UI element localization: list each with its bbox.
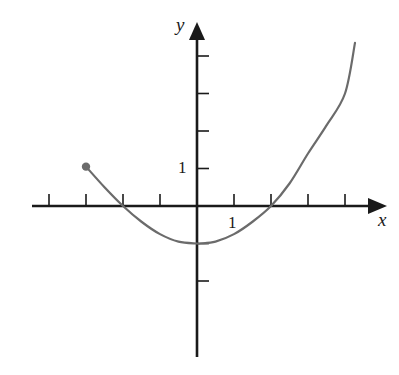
y-axis-label: y [174,14,185,35]
closed-endpoint-dot [82,162,90,170]
function-curve [86,43,355,244]
function-graph: x y 1 1 [0,0,399,375]
y-unit-tick-label: 1 [178,158,187,177]
x-unit-tick-label: 1 [228,213,237,232]
x-axis-label: x [377,209,387,230]
y-axis-arrow-icon [189,22,205,40]
